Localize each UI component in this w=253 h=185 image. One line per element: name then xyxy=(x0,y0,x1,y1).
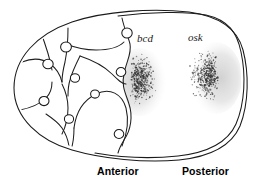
ring-canal-icon-5 xyxy=(64,115,73,124)
ring-canal-icon-4 xyxy=(39,96,49,105)
gene-label-osk: osk xyxy=(188,31,204,43)
egg-chamber-figure: bcd osk Anterior Posterior xyxy=(0,0,253,185)
axis-label-group: Anterior Posterior xyxy=(97,165,229,177)
gene-label-bcd: bcd xyxy=(137,32,153,44)
ring-canal-icon-9 xyxy=(91,90,100,98)
ring-canal-icon-8 xyxy=(114,130,124,139)
axis-label-posterior: Posterior xyxy=(182,165,229,177)
diagram-canvas: bcd osk Anterior Posterior xyxy=(0,0,253,185)
ring-canal-icon-6 xyxy=(122,28,132,38)
ring-canal-icon-1 xyxy=(61,42,72,52)
ring-canal-icon-2 xyxy=(43,59,53,69)
ring-canal-icon-3 xyxy=(70,74,79,83)
ring-canal-icon-7 xyxy=(116,68,126,77)
axis-label-anterior: Anterior xyxy=(97,165,139,177)
